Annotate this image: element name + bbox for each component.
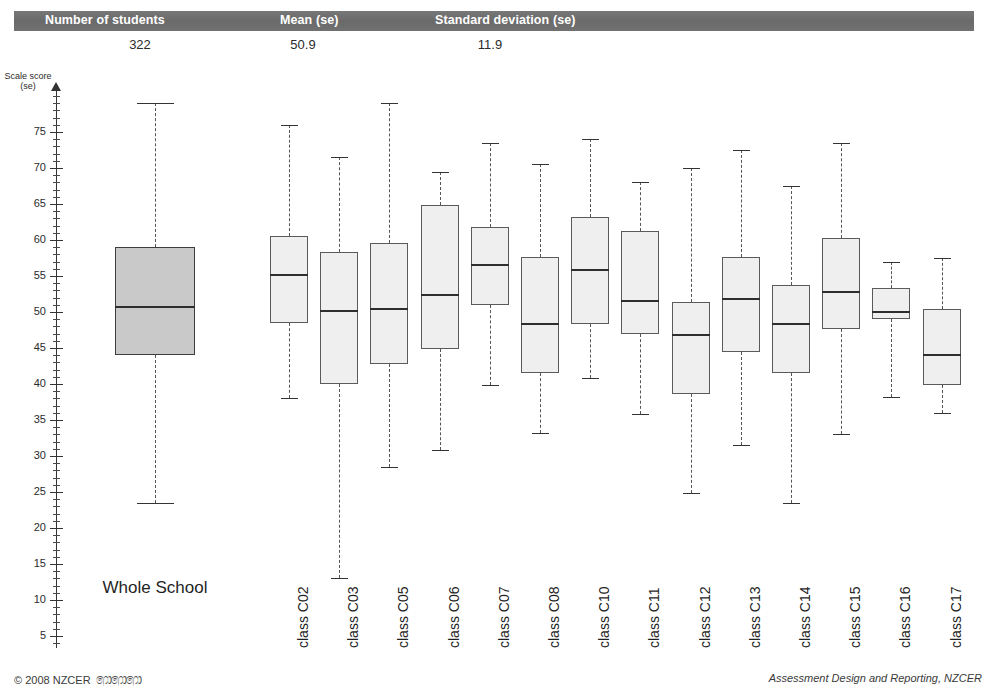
y-tick-minor: [53, 298, 60, 299]
whisker-upper: [440, 172, 441, 205]
y-tick-label: 45: [12, 341, 46, 353]
y-tick-minor: [53, 586, 60, 587]
y-tick-label: 25: [12, 485, 46, 497]
y-tick-minor: [53, 593, 60, 594]
footer: © 2008 NZCER෩෩෩ Assessment Design and Re…: [0, 668, 996, 696]
whisker-cap-lower: [331, 578, 348, 579]
x-axis-label-class-c10: class C10: [596, 587, 612, 648]
whisker-cap-lower: [632, 414, 649, 415]
median-line: [115, 306, 195, 308]
whisker-lower: [741, 352, 742, 445]
y-tick-minor: [53, 607, 60, 608]
y-tick-minor: [53, 643, 60, 644]
y-tick-minor: [53, 427, 60, 428]
y-tick-label: 60: [12, 233, 46, 245]
box-iqr[interactable]: [421, 205, 459, 349]
y-tick-minor: [53, 535, 60, 536]
whisker-cap-lower: [281, 398, 298, 399]
box-iqr[interactable]: [822, 238, 860, 329]
y-tick-minor: [53, 377, 60, 378]
median-line: [672, 334, 710, 336]
box-iqr[interactable]: [772, 285, 810, 373]
y-tick-minor: [53, 161, 60, 162]
y-tick-minor: [53, 485, 60, 486]
y-tick-minor: [53, 571, 60, 572]
y-tick-minor: [53, 262, 60, 263]
y-tick-minor: [53, 283, 60, 284]
box-iqr[interactable]: [270, 236, 308, 323]
whisker-upper: [155, 103, 156, 247]
y-tick-minor: [53, 470, 60, 471]
box-iqr[interactable]: [672, 302, 710, 394]
whisker-cap-lower: [934, 413, 951, 414]
whisker-lower: [490, 305, 491, 385]
y-tick-major: [50, 636, 63, 637]
whisker-cap-upper: [482, 143, 499, 144]
median-line: [822, 291, 860, 293]
whisker-lower: [691, 394, 692, 493]
box-iqr[interactable]: [115, 247, 195, 355]
y-tick-major: [50, 564, 63, 565]
x-axis-label-class-c07: class C07: [496, 587, 512, 648]
y-tick-major: [50, 600, 63, 601]
y-tick-label: 10: [12, 593, 46, 605]
x-axis-label-class-c12: class C12: [697, 587, 713, 648]
whisker-lower: [640, 334, 641, 414]
y-tick-label-text: 65: [20, 197, 46, 209]
whisker-cap-lower: [883, 397, 900, 398]
y-tick-minor: [53, 218, 60, 219]
whisker-cap-upper: [833, 143, 850, 144]
y-tick-minor: [53, 211, 60, 212]
median-line: [571, 269, 609, 271]
whisker-cap-upper: [281, 125, 298, 126]
copyright-label: © 2008 NZCER: [14, 674, 91, 686]
y-tick-minor: [53, 442, 60, 443]
y-tick-label-text: 15: [20, 557, 46, 569]
y-tick-minor: [53, 614, 60, 615]
box-iqr[interactable]: [370, 243, 408, 364]
y-tick-minor: [53, 449, 60, 450]
y-tick-minor: [53, 629, 60, 630]
whisker-cap-upper: [532, 164, 549, 165]
median-line: [772, 323, 810, 325]
whisker-cap-upper: [883, 262, 900, 263]
y-tick-label: 30: [12, 449, 46, 461]
y-tick-label: 15: [12, 557, 46, 569]
box-iqr[interactable]: [722, 257, 760, 352]
box-iqr[interactable]: [521, 257, 559, 373]
whisker-upper: [540, 164, 541, 257]
y-tick-minor: [53, 514, 60, 515]
y-tick-label-text: 10: [20, 593, 46, 605]
box-iqr[interactable]: [471, 227, 509, 305]
x-axis-label-class-c16: class C16: [897, 587, 913, 648]
y-tick-label-text: 55: [20, 269, 46, 281]
y-tick-minor: [53, 578, 60, 579]
whisker-cap-lower: [137, 503, 174, 504]
whisker-cap-lower: [482, 385, 499, 386]
box-iqr[interactable]: [621, 231, 659, 334]
y-tick-minor: [53, 550, 60, 551]
median-line: [872, 311, 910, 313]
y-tick-minor: [53, 478, 60, 479]
y-tick-minor: [53, 125, 60, 126]
x-axis-label-class-c05: class C05: [395, 587, 411, 648]
y-tick-minor: [53, 398, 60, 399]
y-tick-minor: [53, 247, 60, 248]
box-iqr[interactable]: [872, 288, 910, 319]
median-line: [722, 298, 760, 300]
whole-school-label: Whole School: [65, 578, 245, 598]
whisker-upper: [640, 182, 641, 231]
whisker-cap-upper: [432, 172, 449, 173]
koru-logo-icon: ෩෩෩: [96, 672, 141, 688]
y-tick-label-text: 30: [20, 449, 46, 461]
whisker-lower: [389, 364, 390, 467]
box-iqr[interactable]: [320, 252, 358, 384]
x-axis-label-class-c06: class C06: [446, 587, 462, 648]
y-tick-minor: [53, 341, 60, 342]
whisker-upper: [490, 143, 491, 227]
y-tick-minor: [53, 463, 60, 464]
y-tick-major: [50, 204, 63, 205]
box-iqr[interactable]: [923, 309, 961, 385]
median-line: [621, 300, 659, 302]
whisker-cap-upper: [733, 150, 750, 151]
